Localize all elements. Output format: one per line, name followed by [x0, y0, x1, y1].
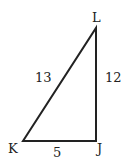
vertex-label-k: K — [8, 141, 18, 156]
vertex-label-j: J — [95, 141, 102, 156]
side-label-kl: 13 — [35, 70, 52, 85]
vertex-label-l: L — [92, 10, 101, 25]
side-label-kj: 5 — [53, 145, 61, 160]
side-label-lj: 12 — [105, 70, 122, 85]
triangle-klj — [23, 28, 96, 141]
triangle-diagram: L K J 13 12 5 — [0, 0, 126, 164]
